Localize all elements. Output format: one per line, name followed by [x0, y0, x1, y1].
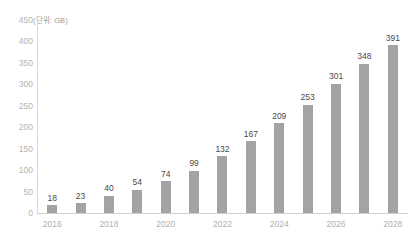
y-axis-tick-label: 100 [5, 166, 33, 175]
y-axis-tick-label: 50 [5, 187, 33, 196]
x-axis-ticks: 2016201820202022202420262028 [38, 0, 407, 249]
y-axis-tick-label: 200 [5, 123, 33, 132]
y-axis-tick-label: 400 [5, 37, 33, 46]
x-axis-tick-label: 2028 [373, 220, 411, 229]
bar-chart: (단위: GB) 450400350300250200150100500 182… [0, 0, 411, 249]
x-axis-tick-label: 2018 [89, 220, 129, 229]
y-axis-tick-label: 450 [5, 16, 33, 25]
y-axis-tick-label: 300 [5, 80, 33, 89]
y-axis-tick-label: 0 [5, 209, 33, 218]
y-axis-ticks: 450400350300250200150100500 [0, 0, 33, 249]
x-axis-tick-label: 2020 [146, 220, 186, 229]
x-axis-tick-label: 2026 [316, 220, 356, 229]
y-axis-tick-label: 250 [5, 102, 33, 111]
x-axis-tick-label: 2024 [259, 220, 299, 229]
y-axis-tick-label: 350 [5, 59, 33, 68]
y-axis-tick-label: 150 [5, 144, 33, 153]
x-axis-tick-label: 2016 [32, 220, 72, 229]
x-axis-tick-label: 2022 [203, 220, 243, 229]
